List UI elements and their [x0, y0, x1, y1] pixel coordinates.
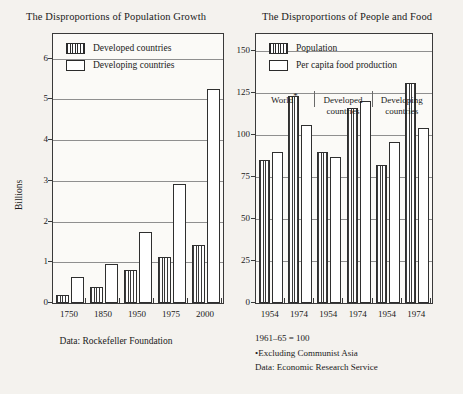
y-axis-tick-mark — [48, 98, 53, 99]
group-separator-1 — [314, 91, 315, 107]
note-source: Data: Economic Research Service — [255, 360, 378, 375]
bar-series2-1974-5 — [418, 128, 429, 303]
y-axis-tick-mark — [251, 92, 256, 93]
x-axis-tick-label-1974-3: 1974 — [349, 309, 367, 319]
group-label-line1: Developing — [381, 95, 423, 106]
chart-title-right: The Disproportions of People and Food — [231, 11, 463, 22]
gridline — [53, 99, 223, 100]
group-label-2: Developingcountries — [381, 95, 423, 116]
bar-series2-1954-2 — [330, 157, 341, 303]
legend-swatch-open-icon — [269, 60, 288, 71]
y-axis-tick-mark — [48, 221, 53, 222]
gridline — [53, 181, 223, 182]
group-label-line1: World* — [271, 95, 298, 106]
y-axis-tick-label: 25 — [228, 255, 250, 265]
y-axis-tick-mark — [251, 50, 256, 51]
x-axis-tick-label-1974-1: 1974 — [290, 309, 308, 319]
gridline — [53, 222, 223, 223]
bar-series1-1850-1 — [90, 287, 103, 303]
x-axis-tick-mark — [187, 298, 188, 303]
x-axis-tick-label-1750-0: 1750 — [60, 309, 78, 319]
legend-right: Population Per capita food production — [269, 42, 397, 76]
legend-item-developing: Developing countries — [66, 59, 175, 71]
bar-series1-2000-4 — [192, 245, 205, 303]
bar-series1-1974-1 — [288, 96, 299, 303]
x-axis-tick-label-1974-5: 1974 — [407, 309, 425, 319]
legend-left: Developed countries Developing countries — [66, 42, 175, 76]
bar-series1-1954-2 — [317, 152, 328, 303]
group-label-star: * — [293, 91, 298, 101]
legend-label-developed: Developed countries — [93, 43, 171, 53]
figure-page: The Disproportions of Population Growth … — [0, 0, 463, 394]
y-axis-tick-label: 150 — [228, 45, 250, 55]
group-separator-2 — [372, 91, 373, 107]
bar-series2-1950-2 — [139, 232, 152, 303]
legend-swatch-hatch-icon — [66, 43, 85, 54]
legend-item-developed: Developed countries — [66, 42, 175, 54]
bar-series2-1974-3 — [360, 101, 371, 303]
x-axis-tick-mark — [153, 298, 154, 303]
y-axis-tick-label: 0 — [26, 297, 48, 307]
y-axis-tick-mark — [251, 218, 256, 219]
y-axis-tick-label: 0 — [228, 297, 250, 307]
legend-swatch-hatch-icon — [269, 43, 288, 54]
bar-series1-1954-0 — [259, 160, 270, 303]
x-axis-tick-label-1954-2: 1954 — [319, 309, 337, 319]
x-axis-tick-label-1850-1: 1850 — [94, 309, 112, 319]
legend-item-population: Population — [269, 42, 397, 54]
y-axis-tick-mark — [48, 180, 53, 181]
bar-series2-1954-0 — [272, 152, 283, 303]
x-axis-tick-mark — [221, 298, 222, 303]
legend-swatch-open-icon — [66, 60, 85, 71]
y-axis-tick-label: 6 — [26, 53, 48, 63]
legend-item-food: Per capita food production — [269, 59, 397, 71]
notes-right: 1961–65 = 100 •Excluding Communist Asia … — [255, 331, 378, 375]
x-axis-tick-mark — [372, 298, 373, 303]
x-axis-tick-label-1954-0: 1954 — [261, 309, 279, 319]
group-label-line1: Developed — [324, 95, 363, 106]
legend-label-food: Per capita food production — [296, 60, 397, 70]
y-axis-tick-label: 125 — [228, 87, 250, 97]
legend-label-population: Population — [296, 43, 337, 53]
x-axis-tick-mark — [313, 298, 314, 303]
y-axis-tick-mark — [251, 260, 256, 261]
y-axis-tick-label: 4 — [26, 134, 48, 144]
note-index-base: 1961–65 = 100 — [255, 331, 378, 346]
y-axis-tick-mark — [251, 134, 256, 135]
y-axis-label-left: Billions — [14, 180, 24, 210]
x-axis-tick-mark — [284, 298, 285, 303]
caption-left: Data: Rockefeller Foundation — [0, 336, 232, 346]
y-axis-tick-label: 2 — [26, 216, 48, 226]
bar-series1-1750-0 — [56, 295, 69, 303]
y-axis-tick-mark — [251, 302, 256, 303]
bar-series2-1750-0 — [71, 277, 84, 304]
note-footnote: •Excluding Communist Asia — [255, 346, 378, 361]
x-axis-tick-mark — [119, 298, 120, 303]
x-axis-tick-label-1975-3: 1975 — [162, 309, 180, 319]
y-axis-tick-label: 100 — [228, 129, 250, 139]
y-axis-tick-label: 1 — [26, 256, 48, 266]
y-axis-tick-label: 75 — [228, 171, 250, 181]
y-axis-tick-label: 5 — [26, 93, 48, 103]
y-axis-tick-mark — [48, 58, 53, 59]
x-axis-tick-mark — [342, 298, 343, 303]
bar-series1-1950-2 — [124, 270, 137, 303]
chart-title-left: The Disproportions of Population Growth — [0, 11, 232, 22]
group-label-0: World* — [271, 95, 298, 106]
x-axis-tick-label-1954-4: 1954 — [378, 309, 396, 319]
legend-label-developing: Developing countries — [93, 60, 175, 70]
y-axis-tick-mark — [48, 302, 53, 303]
x-axis-tick-mark — [430, 298, 431, 303]
group-label-line2: countries — [324, 106, 363, 117]
x-axis-tick-mark — [401, 298, 402, 303]
group-label-line2: countries — [381, 106, 423, 117]
y-axis-tick-mark — [251, 176, 256, 177]
bar-series1-1975-3 — [158, 257, 171, 303]
y-axis-tick-label: 3 — [26, 175, 48, 185]
x-axis-tick-mark — [85, 298, 86, 303]
bar-series2-1974-1 — [301, 125, 312, 303]
x-axis-tick-label-1950-2: 1950 — [128, 309, 146, 319]
bar-series2-1975-3 — [173, 184, 186, 303]
gridline — [53, 140, 223, 141]
y-axis-tick-mark — [48, 261, 53, 262]
